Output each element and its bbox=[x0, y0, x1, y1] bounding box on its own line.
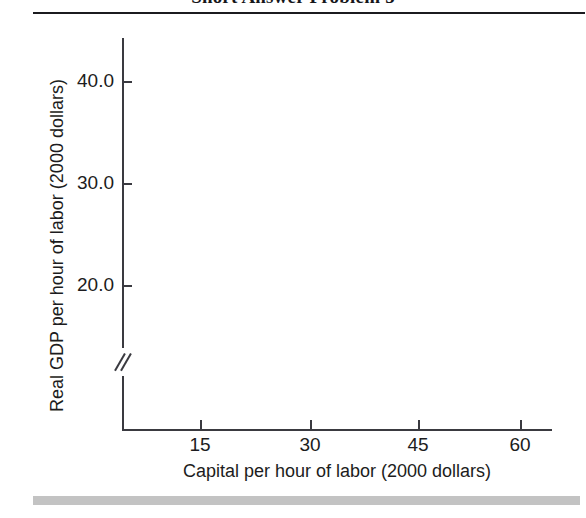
x-tick-label: 45 bbox=[388, 434, 448, 456]
x-tick-mark bbox=[200, 420, 202, 430]
y-tick-mark bbox=[123, 285, 132, 287]
axis-break-icon bbox=[112, 348, 134, 376]
chart-figure: 40.0 30.0 20.0 15 30 45 60 Capital per h… bbox=[0, 0, 586, 518]
worksheet-page: Short Answer Problem 5 40.0 30.0 20.0 bbox=[0, 0, 586, 518]
y-tick-mark bbox=[123, 81, 132, 83]
y-tick-mark bbox=[123, 183, 132, 185]
x-tick-label: 30 bbox=[280, 434, 340, 456]
y-axis-title: Real GDP per hour of labor (2000 dollars… bbox=[47, 46, 68, 446]
x-tick-mark bbox=[418, 420, 420, 430]
x-axis-line bbox=[122, 429, 552, 431]
x-tick-mark bbox=[310, 420, 312, 430]
x-tick-label: 60 bbox=[490, 434, 550, 456]
x-tick-mark bbox=[520, 420, 522, 430]
x-axis-title: Capital per hour of labor (2000 dollars) bbox=[122, 461, 552, 482]
x-tick-label: 15 bbox=[170, 434, 230, 456]
footer-bar bbox=[33, 496, 580, 505]
plot-area[interactable] bbox=[123, 38, 552, 430]
